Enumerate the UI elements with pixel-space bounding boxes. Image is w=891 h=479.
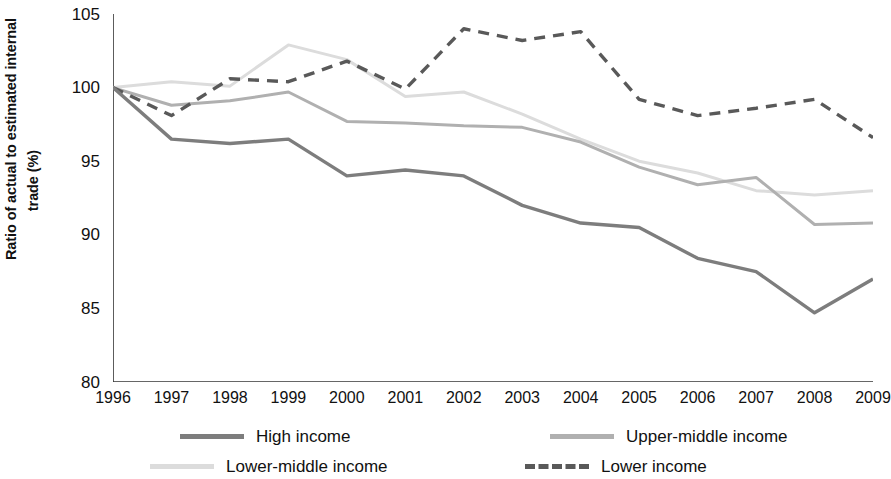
- y-axis-tick-labels: 10510095908580: [52, 0, 100, 395]
- y-axis-tick-label: 105: [54, 6, 100, 23]
- y-axis-tick-label: 90: [54, 226, 100, 243]
- x-axis-tick-label: 2006: [680, 390, 716, 406]
- series-line-lower-income: [113, 29, 873, 138]
- legend-item-lower-middle-income[interactable]: Lower-middle income: [150, 454, 388, 478]
- legend-label-high-income: High income: [256, 428, 351, 445]
- x-axis-tick-label: 2000: [329, 390, 365, 406]
- legend-item-high-income[interactable]: High income: [180, 424, 351, 448]
- legend-label-upper-middle-income: Upper-middle income: [626, 428, 788, 445]
- series-line-lower-middle-income: [113, 45, 873, 195]
- legend-item-upper-middle-income[interactable]: Upper-middle income: [550, 424, 788, 448]
- legend-item-lower-income[interactable]: Lower income: [525, 454, 707, 478]
- y-axis-title: Ratio of actual to estimated internal tr…: [0, 0, 56, 395]
- y-axis-title-line-1: Ratio of actual to estimated internal: [4, 18, 19, 260]
- chart-legend: High income Upper-middle income Lower-mi…: [150, 424, 870, 479]
- x-axis-tick-label: 1998: [212, 390, 248, 406]
- x-axis-tick-label: 2003: [504, 390, 540, 406]
- y-axis-tick-label: 80: [54, 374, 100, 391]
- x-axis-tick-label: 1999: [271, 390, 307, 406]
- x-axis-tick-label: 2009: [855, 390, 891, 406]
- legend-swatch-lower-income: [525, 464, 589, 469]
- x-axis-tick-label: 1997: [154, 390, 190, 406]
- x-axis-tick-label: 2002: [446, 390, 482, 406]
- plot-svg: [113, 14, 873, 382]
- y-axis-tick-label: 85: [54, 300, 100, 317]
- series-line-high-income: [113, 88, 873, 313]
- x-axis-tick-label: 2004: [563, 390, 599, 406]
- x-axis-tick-label: 2001: [388, 390, 424, 406]
- x-axis-tick-label: 1996: [95, 390, 131, 406]
- x-axis-tick-label: 2007: [738, 390, 774, 406]
- legend-swatch-lower-middle-income: [150, 464, 214, 469]
- x-axis-tick-label: 2008: [797, 390, 833, 406]
- series-line-upper-middle-income: [113, 88, 873, 225]
- legend-label-lower-middle-income: Lower-middle income: [226, 458, 388, 475]
- legend-label-lower-income: Lower income: [601, 458, 707, 475]
- plot-area: [113, 14, 873, 382]
- x-axis-tick-labels: 1996199719981999200020012002200320042005…: [113, 390, 873, 414]
- y-axis-tick-label: 95: [54, 153, 100, 170]
- x-axis-tick-label: 2005: [621, 390, 657, 406]
- legend-swatch-upper-middle-income: [550, 434, 614, 439]
- y-axis-title-line-2: trade (%): [26, 150, 41, 211]
- y-axis-tick-label: 100: [54, 79, 100, 96]
- legend-swatch-high-income: [180, 434, 244, 439]
